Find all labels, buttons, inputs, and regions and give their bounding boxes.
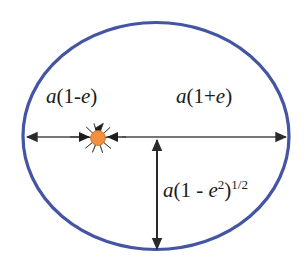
- label-apoapsis: a(1+e): [176, 86, 232, 107]
- semiminor-exponent-half: 1/2: [231, 177, 248, 192]
- periapsis-var-e: e: [81, 84, 90, 108]
- sun-disc-icon: [91, 131, 106, 146]
- orbit-ellipse: [23, 23, 289, 250]
- apoapsis-var-a: a: [176, 84, 187, 108]
- label-semi-minor-axis: a(1 - e2)1/2: [163, 180, 248, 201]
- sun-marker: [83, 123, 114, 153]
- label-periapsis: a(1-e): [46, 86, 97, 107]
- orbital-ellipse-diagram: a(1-e) a(1+e) a(1 - e2)1/2: [0, 0, 308, 273]
- semiminor-var-a: a: [163, 178, 174, 202]
- apoapsis-open: (1+: [187, 84, 216, 108]
- semiminor-var-e: e: [209, 178, 218, 202]
- apoapsis-close: ): [225, 84, 232, 108]
- periapsis-close: ): [90, 84, 97, 108]
- semiminor-open: (1 -: [174, 178, 209, 202]
- periapsis-open: (1-: [57, 84, 82, 108]
- orbit-diagram-canvas: [0, 0, 308, 273]
- apoapsis-var-e: e: [216, 84, 225, 108]
- periapsis-var-a: a: [46, 84, 57, 108]
